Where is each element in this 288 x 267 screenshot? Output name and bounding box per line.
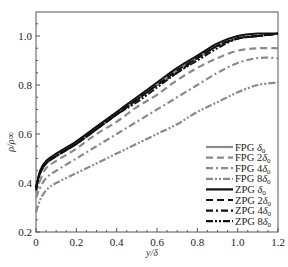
y-tick-label: 0.8 <box>18 79 32 91</box>
y-axis-label: ρ/ρ∞ <box>5 132 16 153</box>
x-tick-label: 0.2 <box>69 236 83 248</box>
y-axis-ticks: 0.20.40.60.81.0 <box>18 24 40 238</box>
y-tick-label: 1.0 <box>18 30 32 42</box>
density-profile-chart: 00.20.40.60.81.01.2 0.20.40.60.81.0 FPG … <box>0 0 288 267</box>
legend: FPG δ0FPG 2δ0FPG 4δ0FPG 8δ0ZPG δ0ZPG 2δ0… <box>206 142 272 229</box>
x-tick-label: 1.2 <box>271 236 285 248</box>
y-tick-label: 0.2 <box>18 226 32 238</box>
x-tick-label: 0.8 <box>190 236 204 248</box>
legend-label: ZPG 8δ0 <box>235 216 272 229</box>
y-tick-label: 0.4 <box>18 177 32 189</box>
x-tick-label: 1.0 <box>231 236 245 248</box>
x-tick-label: 0.4 <box>110 236 124 248</box>
y-tick-label: 0.6 <box>18 128 32 140</box>
x-tick-label: 0 <box>33 236 39 248</box>
x-axis-label: y/δ <box>145 247 158 258</box>
x-axis-ticks: 00.20.40.60.81.01.2 <box>33 228 285 248</box>
